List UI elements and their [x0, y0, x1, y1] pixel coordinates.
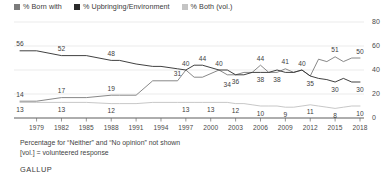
- line-chart: 0204060801417193140444140515056524840443…: [0, 16, 392, 124]
- data-label: 9: [283, 111, 287, 118]
- data-label: 13: [58, 106, 66, 113]
- data-label: 8: [333, 112, 337, 119]
- data-label: 51: [331, 46, 339, 53]
- legend-item-born-with: % Born with: [14, 3, 62, 10]
- data-label: 12: [232, 107, 240, 114]
- footnote-line-2: [vol.] = volunteered response: [20, 148, 180, 158]
- data-label: 40: [215, 60, 223, 67]
- data-label: 38: [273, 76, 281, 83]
- footnote-line-1: Percentage for “Neither” and “No opinion…: [20, 138, 180, 148]
- chart-legend: % Born with % Upbringing/Environment % B…: [14, 3, 232, 10]
- x-axis-tick-label: 1979: [29, 124, 44, 131]
- chart-canvas: 0204060801417193140444140515056524840443…: [0, 16, 392, 124]
- data-label: 36: [232, 78, 240, 85]
- data-label: 40: [182, 60, 190, 67]
- x-axis-tick-label: 2003: [228, 124, 243, 131]
- data-label: 50: [356, 48, 364, 55]
- y-axis-tick-label: 20: [372, 90, 380, 97]
- data-label: 12: [107, 107, 115, 114]
- square-swatch-icon: [14, 4, 20, 10]
- data-label: 44: [199, 55, 207, 62]
- data-label: 19: [107, 85, 115, 92]
- legend-item-upbringing: % Upbringing/Environment: [74, 3, 170, 10]
- legend-item-both: % Both (vol.): [182, 3, 233, 10]
- series-line-1: [20, 51, 360, 82]
- x-axis-tick-label: 1997: [178, 124, 193, 131]
- x-axis-tick-label: 2006: [253, 124, 268, 131]
- data-label: 35: [306, 80, 314, 87]
- y-axis-tick-label: 60: [372, 42, 380, 49]
- x-axis-tick-label: 2012: [303, 124, 318, 131]
- data-label: 30: [356, 86, 364, 93]
- y-axis-tick-label: 0: [372, 114, 376, 121]
- legend-label: % Upbringing/Environment: [83, 3, 170, 10]
- data-label: 41: [282, 58, 290, 65]
- data-label: 30: [331, 86, 339, 93]
- data-label: 31: [174, 70, 182, 77]
- data-label: 38: [257, 76, 265, 83]
- square-swatch-icon: [182, 4, 188, 10]
- data-label: 44: [257, 55, 265, 62]
- data-label: 10: [257, 110, 265, 117]
- data-label: 56: [16, 40, 24, 47]
- x-axis-tick-label: 1985: [79, 124, 94, 131]
- data-label: 13: [182, 106, 190, 113]
- x-axis-tick-label: 2009: [278, 124, 293, 131]
- x-axis-tick-label: 1991: [129, 124, 144, 131]
- data-label: 48: [107, 50, 115, 57]
- legend-label: % Born with: [23, 3, 62, 10]
- data-label: 10: [356, 110, 364, 117]
- y-axis-tick-label: 80: [372, 18, 380, 25]
- legend-label: % Both (vol.): [191, 3, 233, 10]
- data-label: 52: [58, 45, 66, 52]
- x-axis-labels: 1979198219851988199119941997200020032006…: [0, 124, 392, 136]
- data-label: 13: [207, 106, 215, 113]
- source-gallup: GALLUP: [20, 165, 52, 174]
- data-label: 40: [298, 60, 306, 67]
- data-label: 13: [16, 106, 24, 113]
- chart-page: % Born with % Upbringing/Environment % B…: [0, 0, 392, 182]
- data-label: 34: [224, 81, 232, 88]
- data-label: 14: [16, 91, 24, 98]
- x-axis-tick-label: 2000: [203, 124, 218, 131]
- chart-footnote: Percentage for “Neither” and “No opinion…: [20, 138, 180, 157]
- data-label: 11: [307, 108, 314, 115]
- x-axis-tick-label: 1988: [104, 124, 119, 131]
- x-axis-tick-label: 1982: [54, 124, 69, 131]
- y-axis-tick-label: 40: [372, 66, 380, 73]
- x-axis-tick-label: 2018: [352, 124, 367, 131]
- x-axis-tick-label: 2015: [328, 124, 343, 131]
- square-swatch-icon: [74, 4, 80, 10]
- x-axis-tick-label: 1994: [153, 124, 168, 131]
- data-label: 17: [58, 87, 66, 94]
